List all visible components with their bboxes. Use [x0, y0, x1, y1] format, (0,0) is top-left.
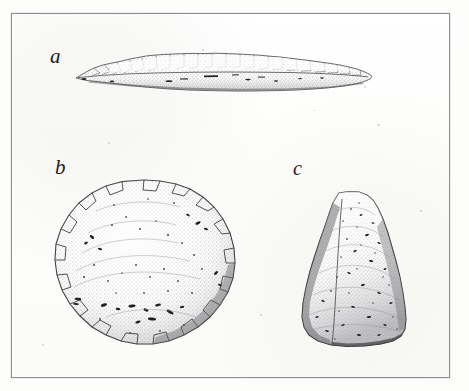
figure-label-a: a: [50, 46, 61, 67]
paper-speck: [420, 210, 422, 212]
round-stone-disc-drawing: [48, 177, 246, 367]
figure-label-b: b: [55, 157, 66, 178]
plate-page: a: [0, 0, 469, 391]
paper-speck: [42, 344, 44, 346]
figure-b-round-stone-disc: [48, 177, 246, 367]
figure-label-c: c: [293, 158, 302, 178]
figure-c-domed-stone-celt: [293, 189, 415, 357]
disc-radial-shading: [55, 180, 235, 344]
paper-speck: [260, 314, 262, 316]
paper-speck: [108, 142, 110, 144]
plate-frame: a: [11, 13, 450, 378]
paper-speck: [377, 124, 380, 126]
figure-a-chipped-stone-blade: [72, 48, 374, 98]
paper-speck: [313, 110, 315, 111]
domed-stone-celt-drawing: [293, 189, 415, 357]
chipped-stone-blade-drawing: [72, 48, 374, 98]
